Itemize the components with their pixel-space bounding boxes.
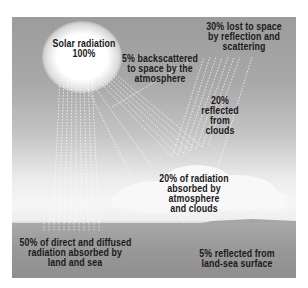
label-reflected-clouds: 20% reflected from clouds — [195, 96, 244, 136]
label-line: land-sea surface — [197, 259, 276, 269]
label-line: 100% — [40, 49, 128, 59]
energy-budget-diagram: Solar radiation 100% 5% backscattered to… — [12, 17, 296, 278]
label-solar-radiation: Solar radiation 100% — [40, 39, 128, 59]
label-absorbed-atmosphere: 20% of radiation absorbed by atmosphere … — [150, 174, 238, 214]
label-line: atmosphere — [116, 74, 204, 84]
label-lost-to-space: 30% lost to space by reflection and scat… — [200, 22, 288, 52]
label-absorbed-land-sea: 50% of direct and diffused radiation abs… — [20, 238, 131, 268]
label-line: and clouds — [150, 204, 238, 214]
label-line: clouds — [195, 126, 244, 136]
label-line: land and sea — [20, 258, 131, 268]
label-backscattered: 5% backscattered to space by the atmosph… — [116, 54, 204, 84]
label-surface-reflected: 5% reflected from land-sea surface — [197, 249, 276, 269]
label-line: scattering — [200, 42, 288, 52]
